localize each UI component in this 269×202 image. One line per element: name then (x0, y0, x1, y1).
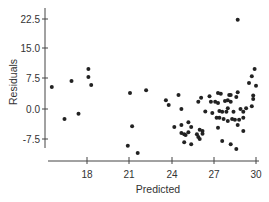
data-point (234, 95, 238, 99)
x-tick-label: 24 (166, 169, 178, 180)
data-point (144, 88, 148, 92)
data-point (167, 103, 171, 107)
data-point (199, 96, 203, 100)
data-point (241, 129, 245, 133)
data-point (179, 123, 183, 127)
data-point (50, 85, 54, 89)
data-point (189, 142, 193, 146)
data-point (186, 120, 190, 124)
data-point (226, 106, 230, 110)
data-point (222, 117, 226, 121)
y-tick-label: -7.5 (23, 134, 41, 145)
y-axis-title: Residuals (7, 59, 19, 105)
data-point (241, 110, 245, 114)
data-point (209, 100, 213, 104)
data-point (254, 84, 258, 88)
data-point (177, 93, 181, 97)
data-points (50, 18, 258, 155)
data-point (234, 147, 238, 151)
data-point (130, 124, 134, 128)
data-point (198, 128, 202, 132)
data-point (250, 74, 254, 78)
data-point (164, 98, 168, 102)
data-point (210, 111, 214, 115)
data-point (216, 101, 220, 105)
data-point (196, 100, 200, 104)
data-point (217, 116, 221, 120)
data-point (224, 110, 228, 114)
data-point (86, 67, 90, 71)
data-point (126, 144, 130, 148)
x-axis-tick-labels: 18 21 24 27 30 (81, 169, 262, 180)
data-point (229, 100, 233, 104)
y-tick-label: 15.0 (21, 43, 41, 54)
data-point (70, 79, 74, 83)
data-point (172, 125, 176, 129)
data-point (179, 107, 183, 111)
data-point (229, 93, 233, 97)
data-point (189, 125, 193, 129)
data-point (241, 116, 245, 120)
data-point (229, 142, 233, 146)
data-point (237, 118, 241, 122)
x-tick-label: 30 (250, 169, 262, 180)
data-point (251, 93, 255, 97)
x-tick-label: 21 (123, 169, 135, 180)
y-tick-label: 0.0 (26, 104, 40, 115)
data-point (250, 104, 254, 108)
data-point (226, 119, 230, 123)
data-point (247, 81, 251, 85)
data-point (196, 135, 200, 139)
data-point (136, 151, 140, 155)
data-point (63, 117, 67, 121)
y-tick-label: 22.5 (21, 14, 41, 25)
data-point (253, 67, 257, 71)
data-point (182, 140, 186, 144)
data-point (86, 75, 90, 79)
data-point (251, 97, 255, 101)
data-point (89, 83, 93, 87)
data-point (219, 92, 223, 96)
data-point (236, 18, 240, 22)
data-point (233, 118, 237, 122)
data-point (236, 90, 240, 94)
data-point (216, 126, 220, 130)
y-tick-label: 7.5 (26, 73, 40, 84)
data-point (77, 112, 81, 116)
data-point (128, 91, 132, 95)
data-point (236, 123, 240, 127)
x-tick-label: 18 (81, 169, 93, 180)
data-point (208, 94, 212, 98)
x-axis-title: Predicted (136, 183, 181, 195)
data-point (203, 109, 207, 113)
data-point (201, 132, 205, 136)
residual-scatter-plot: 22.5 15.0 7.5 0.0 -7.5 Residuals 18 21 2… (0, 0, 269, 202)
data-point (220, 139, 224, 143)
data-point (232, 110, 236, 114)
y-axis-tick-labels: 22.5 15.0 7.5 0.0 -7.5 (21, 14, 41, 145)
data-point (244, 106, 248, 110)
x-tick-label: 27 (208, 169, 220, 180)
data-point (184, 133, 188, 137)
data-point (220, 110, 224, 114)
